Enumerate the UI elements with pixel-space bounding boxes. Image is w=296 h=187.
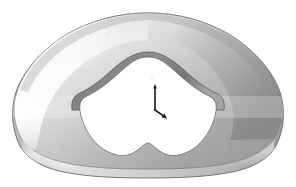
scan-speck <box>151 77 152 78</box>
render-viewport: 3D part render <box>0 0 296 187</box>
axis-origin-marker <box>154 109 156 111</box>
part-render-canvas <box>0 0 296 187</box>
